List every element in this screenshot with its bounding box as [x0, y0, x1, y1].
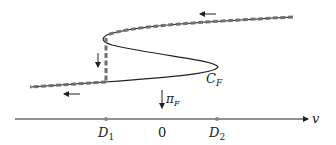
- axis-label: v: [312, 111, 320, 126]
- d1-label: D1: [97, 125, 114, 142]
- point-d1: [104, 117, 108, 121]
- d2-label: D2: [208, 125, 225, 142]
- upper-dashed-branch: [107, 17, 293, 35]
- origin-label: 0: [158, 125, 166, 140]
- point-d2: [215, 117, 219, 121]
- fold-catastrophe-diagram: CF πF v D1 0 D2: [0, 0, 336, 145]
- projection-label: πF: [165, 92, 180, 108]
- fold-curve: [30, 17, 293, 87]
- lower-dashed-branch: [30, 82, 106, 87]
- curve-label: CF: [206, 71, 223, 88]
